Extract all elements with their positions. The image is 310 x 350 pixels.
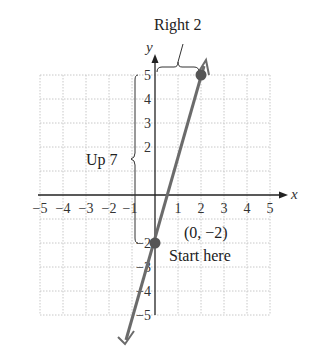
y-axis-label: y [144, 39, 153, 55]
rise-label: Up 7 [86, 151, 118, 169]
svg-text:−2: −2 [102, 201, 117, 216]
svg-text:1: 1 [175, 201, 182, 216]
svg-text:2: 2 [144, 140, 151, 155]
svg-text:−3: −3 [79, 201, 94, 216]
start-point [150, 238, 161, 249]
svg-text:−5: −5 [136, 308, 151, 323]
graph-canvas: x y −5 −4 −3 −2 −1 1 2 3 4 5 5 4 3 2 −2 … [0, 0, 310, 350]
run-label: Right 2 [154, 16, 202, 34]
svg-text:5: 5 [144, 68, 151, 83]
svg-text:−5: −5 [33, 201, 48, 216]
svg-text:4: 4 [144, 92, 151, 107]
run-bracket [157, 44, 199, 72]
start-point-label: (0, −2) [184, 224, 228, 242]
x-tick-labels: −5 −4 −3 −2 −1 1 2 3 4 5 [33, 201, 274, 216]
svg-text:3: 3 [221, 201, 228, 216]
svg-text:2: 2 [198, 201, 205, 216]
start-note: Start here [169, 247, 231, 264]
svg-text:−2: −2 [136, 236, 151, 251]
end-point [196, 70, 207, 81]
svg-text:−4: −4 [56, 201, 71, 216]
svg-text:4: 4 [244, 201, 251, 216]
x-axis-label: x [290, 186, 298, 202]
svg-text:5: 5 [267, 201, 274, 216]
svg-text:3: 3 [144, 116, 151, 131]
